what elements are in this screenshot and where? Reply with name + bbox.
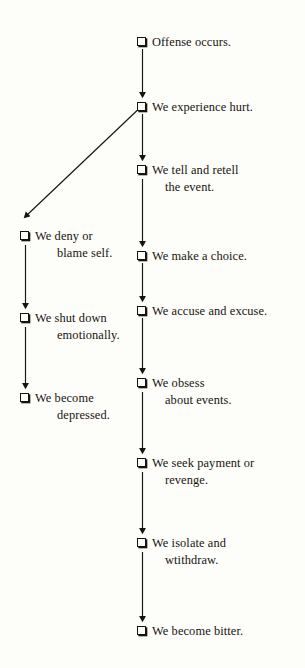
edge-hurt-to-deny-diagonal — [26, 103, 145, 216]
node-label-line1: We isolate and — [152, 535, 226, 552]
node-accuse-and-excuse[interactable]: We accuse and excuse. — [137, 303, 267, 320]
node-label-line2: depressed. — [35, 407, 110, 424]
checkbox-square-icon[interactable] — [137, 306, 146, 315]
node-make-a-choice[interactable]: We make a choice. — [137, 248, 247, 265]
checkbox-square-icon[interactable] — [137, 538, 146, 547]
checkbox-square-icon[interactable] — [137, 626, 146, 635]
node-label-line1: We tell and retell — [152, 162, 238, 179]
node-isolate-and-withdraw[interactable]: We isolate and wtithdraw. — [137, 535, 226, 568]
checkbox-square-icon[interactable] — [137, 37, 146, 46]
node-label-line1: We shut down — [35, 310, 120, 327]
node-label-line1: We accuse and excuse. — [152, 303, 267, 320]
node-label-line1: We obsess — [152, 375, 232, 392]
node-label-line2: the event. — [152, 179, 238, 196]
checkbox-square-icon[interactable] — [20, 393, 29, 402]
node-label-line2: about events. — [152, 392, 232, 409]
flowchart-canvas: Offense occurs. We experience hurt. We t… — [0, 0, 305, 668]
node-deny-or-blame-self[interactable]: We deny or blame self. — [20, 228, 112, 261]
checkbox-square-icon[interactable] — [137, 251, 146, 260]
checkbox-square-icon[interactable] — [137, 102, 146, 111]
node-become-depressed[interactable]: We become depressed. — [20, 390, 110, 423]
node-label-line1: Offense occurs. — [152, 34, 231, 51]
node-label-line1: We make a choice. — [152, 248, 247, 265]
node-seek-payment[interactable]: We seek payment or revenge. — [137, 455, 254, 488]
node-label-line1: We become — [35, 390, 110, 407]
node-label-line2: emotionally. — [35, 327, 120, 344]
node-label-line2: revenge. — [152, 472, 254, 489]
checkbox-square-icon[interactable] — [20, 231, 29, 240]
node-label-line1: We experience hurt. — [152, 99, 253, 116]
checkbox-square-icon[interactable] — [20, 313, 29, 322]
node-experience-hurt[interactable]: We experience hurt. — [137, 99, 253, 116]
node-label-line1: We become bitter. — [152, 623, 243, 640]
node-label-line1: We deny or — [35, 228, 112, 245]
checkbox-square-icon[interactable] — [137, 165, 146, 174]
checkbox-square-icon[interactable] — [137, 378, 146, 387]
node-label-line2: wtithdraw. — [152, 552, 226, 569]
node-become-bitter[interactable]: We become bitter. — [137, 623, 243, 640]
node-shut-down-emotionally[interactable]: We shut down emotionally. — [20, 310, 120, 343]
checkbox-square-icon[interactable] — [137, 458, 146, 467]
node-offense-occurs[interactable]: Offense occurs. — [137, 34, 231, 51]
node-label-line2: blame self. — [35, 245, 112, 262]
node-label-line1: We seek payment or — [152, 455, 254, 472]
node-tell-and-retell[interactable]: We tell and retell the event. — [137, 162, 238, 195]
node-obsess-about-events[interactable]: We obsess about events. — [137, 375, 232, 408]
